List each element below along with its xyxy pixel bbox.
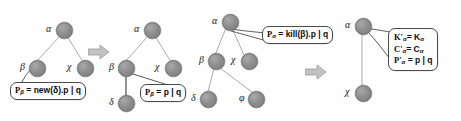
callout-4-l3-rhs: = p | q bbox=[408, 55, 433, 65]
callout-4-l3-subscript: α bbox=[402, 59, 406, 65]
panel-4: α χ K'α= Kα C'α= Cα P'α = p | q bbox=[0, 0, 461, 121]
callout-process-alpha-p4[interactable]: K'α= Kα C'α= Cα P'α = p | q bbox=[388, 28, 438, 71]
callout-4-l1-rhs-subscript: α bbox=[420, 36, 424, 42]
callout-4-l1-lhs: K' bbox=[394, 32, 403, 42]
node-label-alpha-p4: α bbox=[345, 20, 350, 30]
callout-4-l2-lhs: C' bbox=[394, 44, 403, 54]
callout-4-l2-rhs-subscript: α bbox=[420, 48, 424, 54]
callout-4-line-2: C'α= Cα bbox=[394, 44, 432, 56]
node-alpha-p4[interactable] bbox=[355, 18, 372, 35]
callout-4-l3-lhs: P' bbox=[394, 55, 402, 65]
callout-4-l2-rhs: = C bbox=[406, 44, 419, 54]
node-label-chi-p4: χ bbox=[345, 87, 349, 97]
diagram-canvas: ⇒ ⇒ α β χ Pβ = new(δ).p | q α β χ δ Pβ bbox=[0, 0, 461, 121]
callout-4-line-1: K'α= Kα bbox=[394, 32, 432, 44]
callout-4-line-3: P'α = p | q bbox=[394, 55, 432, 67]
callout-4-l1-rhs: = K bbox=[407, 32, 420, 42]
node-chi-p4[interactable] bbox=[355, 85, 372, 102]
